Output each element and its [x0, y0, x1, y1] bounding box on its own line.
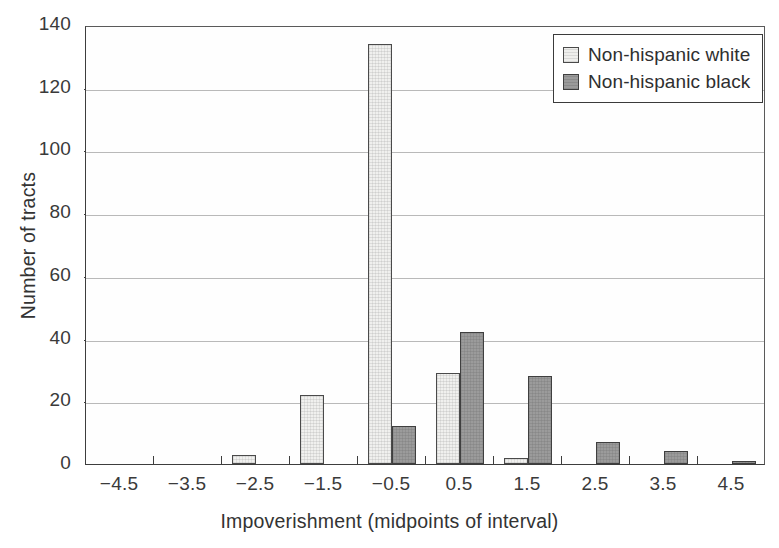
- x-tick-label: 0.5: [425, 473, 493, 495]
- legend-label: Non-hispanic black: [588, 71, 750, 93]
- x-tick-mark: [221, 456, 222, 465]
- bar: [232, 455, 256, 464]
- bar: [368, 44, 392, 464]
- bar: [664, 451, 688, 464]
- bar: [732, 461, 756, 464]
- gridline: [86, 152, 764, 153]
- gridline: [86, 278, 764, 279]
- y-tick-label: 20: [49, 389, 71, 411]
- bar: [300, 395, 324, 464]
- gridline: [86, 341, 764, 342]
- x-tick-label: −4.5: [85, 473, 153, 495]
- x-tick-label: −0.5: [357, 473, 425, 495]
- y-tick-label: 100: [39, 138, 71, 160]
- y-tick-label: 120: [39, 76, 71, 98]
- x-tick-mark: [493, 456, 494, 465]
- x-tick-label: −1.5: [289, 473, 357, 495]
- legend: Non-hispanic white Non-hispanic black: [553, 34, 763, 103]
- bar: [460, 332, 484, 464]
- y-tick-label: 40: [49, 327, 71, 349]
- light-square-swatch-icon: [563, 47, 579, 63]
- gridline: [86, 403, 764, 404]
- x-tick-label: −2.5: [221, 473, 289, 495]
- y-tick-label: 80: [49, 201, 71, 223]
- bar: [392, 426, 416, 464]
- x-tick-mark: [629, 456, 630, 465]
- x-tick-mark: [561, 456, 562, 465]
- legend-label: Non-hispanic white: [588, 44, 750, 66]
- x-tick-label: 4.5: [697, 473, 765, 495]
- x-tick-mark: [289, 456, 290, 465]
- gray-square-swatch-icon: [563, 74, 579, 90]
- y-axis-title: Number of tracts: [17, 155, 40, 335]
- x-tick-label: 3.5: [629, 473, 697, 495]
- y-tick-label: 140: [39, 13, 71, 35]
- x-tick-label: −3.5: [153, 473, 221, 495]
- bar: [596, 442, 620, 464]
- y-tick-label: 0: [60, 452, 71, 474]
- x-axis-title: Impoverishment (midpoints of interval): [0, 510, 779, 533]
- y-tick-label: 60: [49, 264, 71, 286]
- x-tick-mark: [357, 456, 358, 465]
- x-tick-mark: [697, 456, 698, 465]
- bar: [504, 458, 528, 464]
- gridline: [86, 215, 764, 216]
- legend-item-non-hispanic-black: Non-hispanic black: [563, 68, 750, 95]
- x-tick-label: 2.5: [561, 473, 629, 495]
- x-tick-mark: [153, 456, 154, 465]
- bar: [528, 376, 552, 464]
- bar: [436, 373, 460, 464]
- histogram-figure: Number of tracts 020406080100120140 −4.5…: [0, 0, 779, 548]
- x-tick-label: 1.5: [493, 473, 561, 495]
- legend-item-non-hispanic-white: Non-hispanic white: [563, 41, 750, 68]
- x-tick-mark: [425, 456, 426, 465]
